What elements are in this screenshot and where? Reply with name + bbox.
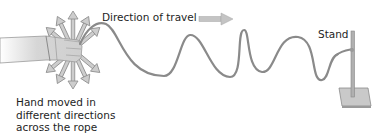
hand-caption-line-2: different directions [16, 109, 115, 122]
hand-caption: Hand moved in different directions acros… [16, 96, 115, 134]
rope-wave [80, 23, 338, 80]
stand-icon [335, 31, 371, 108]
rope-wave-diagram: Direction of travel Stand Hand moved in … [0, 0, 385, 134]
stand-label: Stand [318, 28, 349, 41]
hand-caption-line-3: across the rope [16, 121, 115, 134]
hand-caption-line-1: Hand moved in [16, 96, 115, 109]
hand-icon [0, 36, 82, 63]
direction-arrow-icon [199, 13, 233, 25]
direction-of-travel-label: Direction of travel [102, 11, 197, 24]
